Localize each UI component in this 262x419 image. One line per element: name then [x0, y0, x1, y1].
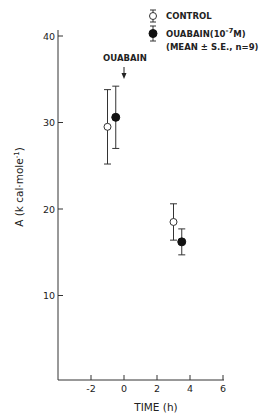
y-tick-label: 40 — [43, 31, 55, 42]
x-tick-label: 0 — [121, 383, 127, 394]
x-axis-title: TIME (h) — [133, 401, 177, 413]
arrow-down-icon — [122, 67, 127, 79]
legend-note: (MEAN ± S.E., n=9) — [166, 42, 259, 52]
y-axis-title: A (k cal·mole-1) — [13, 147, 25, 227]
legend: CONTROL OUABAIN(10-7M) (MEAN ± S.E., n=9… — [149, 10, 259, 52]
control-point — [104, 90, 111, 164]
y-tick-label: 20 — [43, 204, 55, 215]
x-tick-label: 2 — [154, 383, 160, 394]
y-ticks: 10203040 — [43, 31, 63, 302]
x-ticks: -20246 — [86, 375, 226, 394]
ouabain-point — [112, 86, 120, 148]
data-points — [104, 86, 186, 255]
legend-marker-ouabain — [149, 26, 157, 41]
legend-label-ouabain: OUABAIN(10-7M) — [166, 27, 246, 39]
y-tick-label: 10 — [43, 290, 55, 301]
ouabain-annotation: OUABAIN — [103, 53, 147, 63]
x-tick-label: 6 — [220, 383, 226, 394]
y-tick-label: 30 — [43, 117, 55, 128]
legend-marker-control — [150, 10, 157, 22]
control-point — [170, 204, 177, 240]
chart-canvas: 10203040 -20246 TIME (h) A (k cal·mole-1… — [0, 0, 262, 419]
x-tick-label: -2 — [86, 383, 95, 394]
legend-label-control: CONTROL — [166, 11, 212, 21]
x-tick-label: 4 — [187, 383, 193, 394]
ouabain-point — [178, 229, 186, 255]
